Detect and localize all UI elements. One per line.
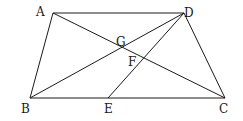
label-F: F (128, 55, 136, 69)
segment-AB (30, 13, 53, 98)
segment-DC (184, 13, 225, 98)
segment-BD (30, 13, 184, 98)
geometry-diagram: A D B C E G F (0, 0, 243, 121)
label-A: A (35, 5, 45, 19)
segment-AC (53, 13, 225, 98)
label-B: B (21, 102, 30, 116)
segment-DE (108, 13, 184, 98)
label-C: C (219, 102, 228, 116)
label-G: G (116, 35, 126, 49)
label-E: E (104, 102, 113, 116)
label-D: D (184, 6, 194, 20)
